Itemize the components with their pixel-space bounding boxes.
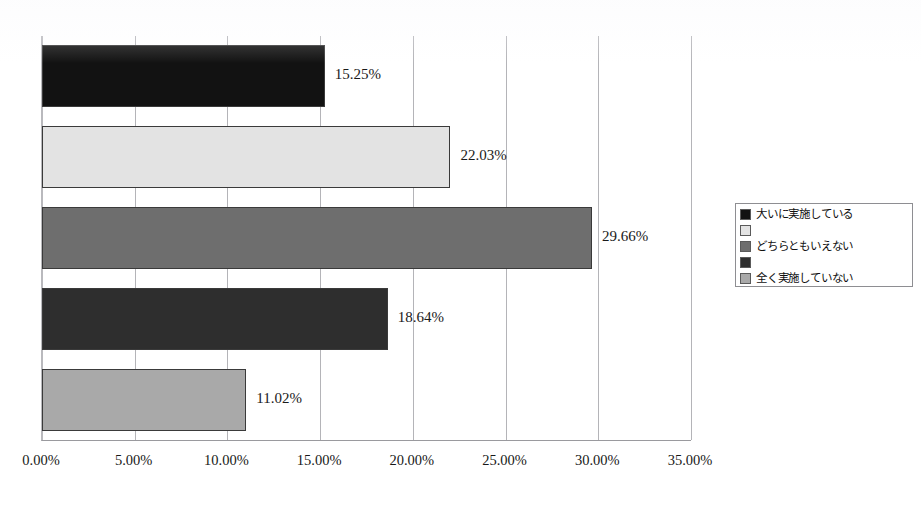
gridline	[691, 36, 692, 440]
x-tick-label: 0.00%	[22, 452, 59, 469]
chart-title-clipped	[180, 0, 540, 5]
bar	[42, 126, 450, 188]
bar	[42, 288, 388, 350]
x-tick-label: 5.00%	[115, 452, 152, 469]
legend-item	[740, 223, 908, 238]
bar-value-label: 18.64%	[398, 309, 444, 326]
bar-value-label: 11.02%	[256, 390, 302, 407]
legend-swatch	[740, 241, 751, 252]
gridline	[598, 36, 599, 440]
bar-value-label: 15.25%	[335, 66, 381, 83]
legend-item: どちらともいえない	[740, 239, 908, 254]
plot-area: 15.25%22.03%29.66%18.64%11.02%	[41, 36, 691, 441]
legend-swatch	[740, 273, 751, 284]
x-axis-tick-labels: 0.00%5.00%10.00%15.00%20.00%25.00%30.00%…	[0, 452, 921, 474]
bar	[42, 369, 246, 431]
chart-figure: 15.25%22.03%29.66%18.64%11.02% 0.00%5.00…	[0, 0, 921, 527]
legend-item-label: 大いに実施している	[756, 208, 853, 221]
x-tick-label: 15.00%	[297, 452, 342, 469]
x-tick-label: 20.00%	[389, 452, 434, 469]
bar	[42, 207, 592, 269]
bar-value-label: 22.03%	[460, 147, 506, 164]
legend-item: 全く実施していない	[740, 271, 908, 286]
bar	[42, 45, 325, 107]
x-tick-label: 10.00%	[204, 452, 249, 469]
bar-value-label: 29.66%	[602, 228, 648, 245]
legend-item: 大いに実施している	[740, 207, 908, 222]
legend-item-label: 全く実施していない	[756, 272, 853, 285]
legend-item-label: どちらともいえない	[756, 240, 853, 253]
legend-swatch	[740, 225, 751, 236]
x-tick-label: 25.00%	[482, 452, 527, 469]
legend-item	[740, 255, 908, 270]
x-tick-label: 35.00%	[668, 452, 713, 469]
legend-swatch	[740, 257, 751, 268]
legend-swatch	[740, 209, 751, 220]
chart-legend: 大いに実施しているどちらともいえない全く実施していない	[735, 203, 913, 287]
x-tick-label: 30.00%	[575, 452, 620, 469]
